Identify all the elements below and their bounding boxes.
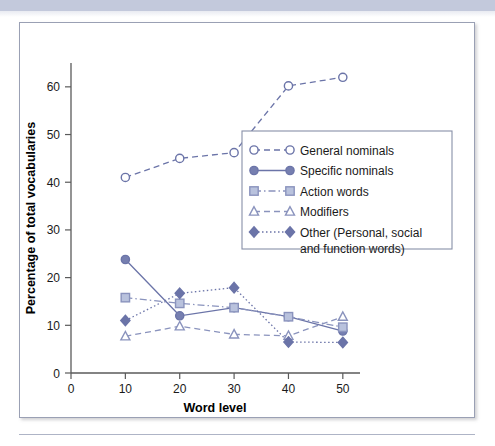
y-axis-title: Percentage of total vocabularies [24, 122, 38, 314]
x-tick-label: 0 [68, 382, 75, 396]
data-point-marker [121, 315, 130, 325]
data-point-marker [230, 149, 238, 157]
data-point-marker [284, 313, 292, 321]
y-tick-label: 0 [53, 367, 60, 381]
y-tick-label: 50 [47, 128, 61, 142]
data-point-marker [121, 173, 129, 181]
data-point-marker [121, 255, 129, 263]
figure-container: 0102030405060 01020304050 Word level Per… [19, 22, 475, 418]
page-top-band [0, 0, 495, 11]
legend-marker [286, 187, 294, 195]
page-top-band-shadow [0, 11, 495, 17]
x-tick-label: 40 [282, 382, 296, 396]
data-point-marker [175, 321, 184, 329]
x-tick-label: 20 [173, 382, 187, 396]
y-axis-ticks: 0102030405060 [47, 80, 71, 380]
x-axis-title: Word level [184, 401, 247, 415]
y-tick-label: 20 [47, 271, 61, 285]
data-point-marker [175, 288, 184, 298]
series-3 [121, 312, 347, 340]
x-tick-label: 10 [119, 382, 133, 396]
chart-legend: General nominalsSpecific nominalsAction … [242, 131, 452, 256]
legend-label: Specific nominals [300, 164, 393, 178]
data-point-marker [339, 73, 347, 81]
legend-label: General nominals [300, 144, 394, 158]
data-point-marker [338, 312, 347, 320]
y-tick-label: 60 [47, 80, 61, 94]
data-point-marker [176, 154, 184, 162]
y-tick-label: 30 [47, 223, 61, 237]
data-point-marker [176, 299, 184, 307]
legend-marker [250, 166, 258, 174]
line-chart: 0102030405060 01020304050 Word level Per… [20, 23, 474, 417]
data-point-marker [176, 312, 184, 320]
data-point-marker [339, 323, 347, 331]
series-1 [121, 255, 347, 335]
data-point-marker [121, 293, 129, 301]
page-bottom-rule [19, 434, 475, 435]
legend-marker [286, 146, 294, 154]
legend-marker [250, 187, 258, 195]
legend-marker [286, 166, 294, 174]
series-2 [121, 293, 347, 331]
x-axis-ticks: 01020304050 [68, 373, 350, 396]
legend-marker [250, 146, 258, 154]
data-point-marker [338, 337, 347, 347]
x-tick-label: 30 [227, 382, 241, 396]
y-tick-label: 40 [47, 176, 61, 190]
data-point-marker [230, 330, 239, 338]
legend-label-continued: and function words) [300, 242, 405, 256]
data-point-marker [230, 303, 238, 311]
series-line [125, 259, 342, 331]
data-point-marker [284, 82, 292, 90]
legend-label: Other (Personal, social [300, 226, 422, 240]
legend-label: Modifiers [300, 205, 349, 219]
legend-label: Action words [300, 185, 369, 199]
y-tick-label: 10 [47, 319, 61, 333]
x-tick-label: 50 [336, 382, 350, 396]
